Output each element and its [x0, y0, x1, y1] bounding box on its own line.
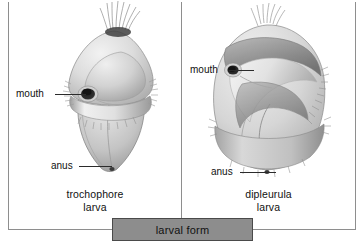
panel-trochophore: trochophore larva [9, 0, 181, 222]
frame-bottom-left-border [8, 229, 113, 230]
apical-tuft-cilia [251, 3, 285, 26]
frame-right-border [355, 2, 356, 230]
label-anus-dipleurula: anus [211, 167, 233, 177]
label-anus-trochophore: anus [51, 161, 73, 171]
larval-form-banner-label: larval form [156, 224, 210, 236]
larval-form-figure: trochophore larva [0, 0, 358, 246]
apical-tuft-cilia [100, 1, 140, 31]
caption-dipleurula-line1: dipleurula [182, 188, 355, 201]
label-mouth-dipleurula: mouth [190, 65, 218, 75]
anus-aperture [109, 167, 114, 171]
dipleurula-larva-drawing [182, 0, 355, 185]
label-mouth-trochophore: mouth [16, 89, 44, 99]
larval-form-banner: larval form [112, 218, 253, 241]
leader-line-anus-dipleurula [240, 172, 276, 173]
leader-line-mouth-dipleurula [229, 70, 254, 71]
leader-line-anus-trochophore [79, 166, 112, 167]
frame-bottom-right-border [253, 229, 356, 230]
caption-dipleurula-line2: larva [182, 201, 355, 214]
caption-trochophore-line1: trochophore [9, 188, 181, 201]
caption-trochophore-line2: larva [9, 201, 181, 214]
apical-plate [105, 27, 131, 37]
panel-dipleurula: dipleurula larva [182, 0, 355, 222]
caption-trochophore: trochophore larva [9, 188, 181, 213]
caption-dipleurula: dipleurula larva [182, 188, 355, 213]
leader-line-mouth-trochophore [55, 94, 86, 95]
